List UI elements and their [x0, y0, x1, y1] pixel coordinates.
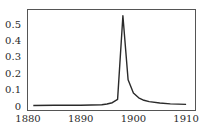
data-line	[33, 16, 186, 106]
x-tick-label: 1900	[121, 113, 146, 124]
y-tick-label: 0	[15, 101, 21, 112]
y-axis-ticks: 00.10.20.30.40.5	[5, 19, 21, 112]
x-tick-label: 1890	[68, 113, 93, 124]
y-tick-label: 0.1	[5, 84, 21, 95]
x-tick-label: 1910	[173, 113, 198, 124]
x-tick-label: 1880	[15, 113, 40, 124]
line-chart: 00.10.20.30.40.5 1880189019001910	[0, 0, 207, 130]
y-tick-label: 0.3	[5, 51, 21, 62]
y-tick-label: 0.4	[5, 35, 21, 46]
x-axis-ticks: 1880189019001910	[15, 113, 199, 124]
plot-frame	[28, 10, 196, 111]
y-tick-label: 0.2	[5, 68, 21, 79]
y-tick-label: 0.5	[5, 19, 21, 30]
